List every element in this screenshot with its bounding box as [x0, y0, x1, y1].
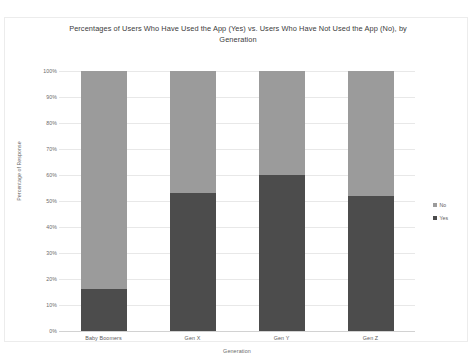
y-axis-tick-label: 10%	[23, 302, 57, 308]
chart-legend: NoYes	[433, 201, 473, 227]
bar-segment-yes[interactable]	[81, 289, 127, 331]
bar-stack[interactable]	[81, 71, 127, 331]
bar-segment-no[interactable]	[348, 71, 394, 196]
x-axis-tick-label: Gen Y	[237, 335, 326, 341]
legend-item-no[interactable]: No	[433, 201, 473, 208]
bar-slot[interactable]	[326, 71, 415, 331]
x-axis-tick-label: Baby Boomers	[59, 335, 148, 341]
y-axis-tick-label: 30%	[23, 250, 57, 256]
bar-segment-no[interactable]	[81, 71, 127, 289]
legend-item-yes[interactable]: Yes	[433, 214, 473, 221]
plot-area	[59, 71, 415, 331]
y-axis-title: Percentage of Response	[16, 116, 22, 226]
y-axis-tick-label: 80%	[23, 120, 57, 126]
bar-segment-no[interactable]	[170, 71, 216, 193]
gridline	[59, 331, 415, 332]
y-axis-tick-label: 0%	[23, 328, 57, 334]
y-axis-tick-labels: 0%10%20%30%40%50%60%70%80%90%100%	[17, 71, 57, 331]
y-axis-tick-label: 90%	[23, 94, 57, 100]
x-axis-tick-label: Gen Z	[326, 335, 415, 341]
legend-swatch-icon	[433, 203, 437, 207]
bar-stack[interactable]	[170, 71, 216, 331]
x-axis-tick-label: Gen X	[148, 335, 237, 341]
bar-slot[interactable]	[237, 71, 326, 331]
bar-segment-yes[interactable]	[348, 196, 394, 331]
bar-stack[interactable]	[348, 71, 394, 331]
bar-slot[interactable]	[59, 71, 148, 331]
legend-label: Yes	[440, 215, 449, 221]
bar-slot[interactable]	[148, 71, 237, 331]
bar-segment-no[interactable]	[259, 71, 305, 175]
legend-label: No	[440, 202, 447, 208]
bar-stack[interactable]	[259, 71, 305, 331]
y-axis-tick-label: 70%	[23, 146, 57, 152]
bar-segment-yes[interactable]	[170, 193, 216, 331]
x-axis-title: Generation	[59, 348, 415, 354]
y-axis-tick-label: 60%	[23, 172, 57, 178]
y-axis-tick-label: 100%	[23, 68, 57, 74]
chart-title: Percentages of Users Who Have Used the A…	[60, 23, 416, 45]
y-axis-tick-label: 20%	[23, 276, 57, 282]
chart-frame: Percentages of Users Who Have Used the A…	[4, 17, 468, 342]
legend-swatch-icon	[433, 216, 437, 220]
bar-segment-yes[interactable]	[259, 175, 305, 331]
x-axis-tick-labels: Baby BoomersGen XGen YGen Z	[59, 335, 415, 347]
y-axis-tick-label: 50%	[23, 198, 57, 204]
y-axis-tick-label: 40%	[23, 224, 57, 230]
